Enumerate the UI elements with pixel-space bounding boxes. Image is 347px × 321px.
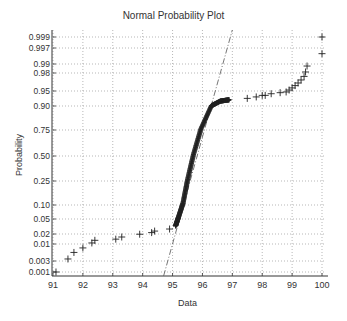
svg-text:0.999: 0.999: [29, 32, 51, 42]
svg-text:0.25: 0.25: [33, 176, 50, 186]
svg-text:100: 100: [314, 280, 329, 290]
svg-text:0.01: 0.01: [33, 239, 50, 249]
grid-lines: [53, 30, 326, 276]
svg-text:92: 92: [78, 280, 88, 290]
svg-text:0.003: 0.003: [29, 256, 51, 266]
svg-text:0.05: 0.05: [33, 214, 50, 224]
svg-text:0.98: 0.98: [33, 68, 50, 78]
svg-text:0.75: 0.75: [33, 125, 50, 135]
svg-text:94: 94: [138, 280, 148, 290]
svg-text:95: 95: [168, 280, 178, 290]
svg-text:97: 97: [227, 280, 237, 290]
svg-text:0.10: 0.10: [33, 200, 50, 210]
svg-text:0.90: 0.90: [33, 101, 50, 111]
svg-text:0.001: 0.001: [29, 267, 51, 277]
svg-text:0.50: 0.50: [33, 151, 50, 161]
svg-text:99: 99: [287, 280, 297, 290]
svg-text:0.02: 0.02: [33, 229, 50, 239]
svg-text:0.997: 0.997: [29, 43, 51, 53]
svg-text:0.95: 0.95: [33, 86, 50, 96]
svg-text:98: 98: [257, 280, 267, 290]
svg-text:93: 93: [108, 280, 118, 290]
svg-text:91: 91: [48, 280, 58, 290]
normal-probability-plot: Normal Probability Plot Probability Data…: [0, 0, 347, 321]
reference-line: [164, 30, 233, 276]
svg-text:0.99: 0.99: [33, 59, 50, 69]
svg-text:96: 96: [197, 280, 207, 290]
data-markers: [52, 34, 325, 276]
plot-area: 9192939495969798991000.0010.0030.010.020…: [0, 0, 347, 321]
